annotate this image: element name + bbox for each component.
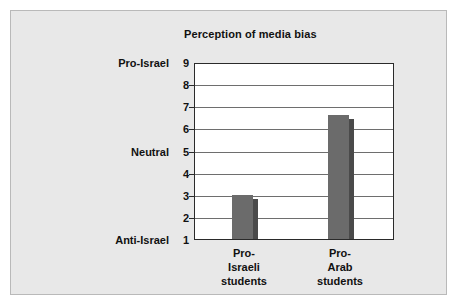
bar-body bbox=[328, 115, 349, 239]
x-axis-category-line: Arab bbox=[285, 260, 395, 274]
gridline bbox=[195, 85, 393, 86]
bar-body bbox=[232, 195, 253, 239]
x-axis-category-line: students bbox=[189, 274, 299, 288]
y-axis-tick-label: 9 bbox=[175, 57, 189, 69]
y-axis-anchor-label: Neutral bbox=[49, 146, 169, 158]
y-axis-tick-label: 8 bbox=[175, 79, 189, 91]
gridline bbox=[195, 107, 393, 108]
plot-area bbox=[194, 63, 394, 240]
y-axis-tick-label: 7 bbox=[175, 101, 189, 113]
gridline bbox=[195, 129, 393, 130]
gridline bbox=[195, 152, 393, 153]
x-axis-category-line: students bbox=[285, 274, 395, 288]
y-axis-tick-label: 3 bbox=[175, 190, 189, 202]
x-axis-category-line: Pro- bbox=[189, 246, 299, 260]
x-axis-category-line: Pro- bbox=[285, 246, 395, 260]
gridline bbox=[195, 218, 393, 219]
y-axis-anchor-label: Anti-Israel bbox=[49, 234, 169, 246]
y-axis-tick-label: 6 bbox=[175, 123, 189, 135]
y-axis-tick-label: 1 bbox=[175, 234, 189, 246]
y-axis-tick-label: 2 bbox=[175, 212, 189, 224]
gridline bbox=[195, 196, 393, 197]
y-axis-tick-label: 5 bbox=[175, 146, 189, 158]
x-axis-category-label: Pro-Israelistudents bbox=[189, 246, 299, 288]
figure-panel: Perception of media bias 123456789Pro-Is… bbox=[10, 10, 447, 295]
chart-title: Perception of media bias bbox=[184, 28, 317, 40]
y-axis-anchor-label: Pro-Israel bbox=[49, 57, 169, 69]
y-axis-tick-label: 4 bbox=[175, 168, 189, 180]
gridline bbox=[195, 174, 393, 175]
x-axis-category-line: Israeli bbox=[189, 260, 299, 274]
x-axis-category-label: Pro-Arabstudents bbox=[285, 246, 395, 288]
